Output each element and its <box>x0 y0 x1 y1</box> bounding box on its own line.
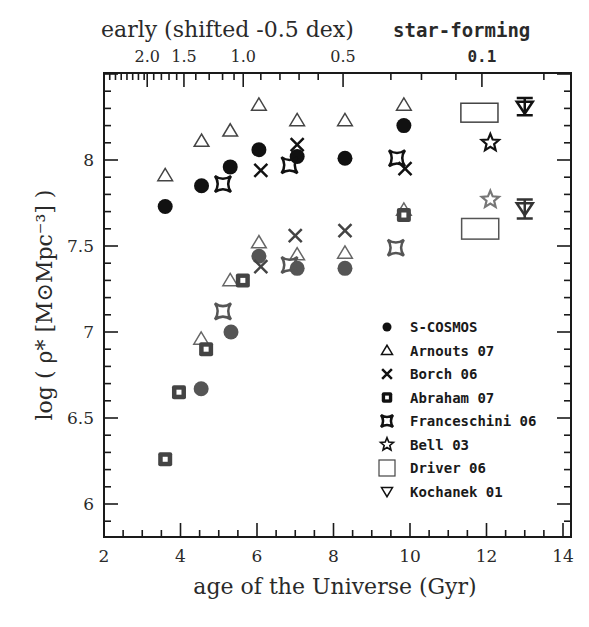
data-point <box>172 385 186 399</box>
legend-item: Kochanek 01 <box>381 484 502 500</box>
legend-item: Driver 06 <box>379 460 486 476</box>
franceschini-icon <box>381 415 393 427</box>
series-kochanek-01-early <box>517 200 533 219</box>
data-point <box>397 208 411 222</box>
square-marker-hole <box>176 390 181 395</box>
top-tick-label: 2.0 <box>134 47 159 66</box>
cross-marker <box>289 229 302 242</box>
top-tick-label: 1.5 <box>171 47 196 66</box>
triangle-marker <box>223 273 238 285</box>
square-marker-hole <box>204 347 209 352</box>
series-driver-06-early <box>462 218 499 239</box>
data-point <box>282 257 298 273</box>
data-point <box>223 273 238 285</box>
data-point <box>223 159 238 174</box>
series-driver-06-star-forming <box>461 103 498 122</box>
triangle-marker <box>158 168 173 180</box>
data-point <box>215 176 231 192</box>
circle-marker <box>158 199 173 214</box>
four-point-star-marker <box>381 415 393 427</box>
rect-icon <box>379 460 395 476</box>
data-point <box>254 164 267 177</box>
data-point <box>194 134 209 146</box>
data-point <box>290 113 305 125</box>
cross-marker <box>338 224 351 237</box>
data-point <box>396 118 411 133</box>
data-point <box>338 246 353 258</box>
data-point <box>199 342 213 356</box>
triangle-marker <box>381 345 392 354</box>
data-point <box>397 98 412 110</box>
data-point <box>194 381 209 396</box>
data-point <box>252 98 267 110</box>
data-point <box>389 150 405 166</box>
arnouts-icon <box>381 345 392 354</box>
circle-marker <box>223 325 238 340</box>
legend-item: S-COSMOS <box>383 319 478 335</box>
y-tick-label: 7.5 <box>67 236 94 256</box>
legend-label: Franceschini 06 <box>410 413 536 429</box>
legend-label: Borch 06 <box>410 366 477 382</box>
top-tick-label: 1.0 <box>231 47 256 66</box>
star-marker <box>482 191 499 207</box>
data-point <box>290 261 305 276</box>
four-point-star-marker <box>215 176 231 192</box>
down-triangle-marker <box>381 488 392 497</box>
legend-label: Driver 06 <box>410 460 486 476</box>
legend-item: Arnouts 07 <box>381 343 494 359</box>
series-franceschini-06-star-forming <box>215 150 405 192</box>
legend-label: Kochanek 01 <box>410 484 503 500</box>
top-tick-label: 0.5 <box>330 47 355 66</box>
square-marker-hole <box>401 213 406 218</box>
star-marker <box>482 134 499 150</box>
top-tick-label: 0.1 <box>467 47 496 66</box>
square-marker-hole <box>163 457 168 462</box>
stellar-mass-density-chart: 246810121466.577.582.01.51.00.50.1 S-COS… <box>0 0 589 627</box>
kochanek-icon <box>381 488 392 497</box>
circle-marker <box>194 178 209 193</box>
driver-box <box>462 218 499 239</box>
cross-marker <box>382 369 392 379</box>
data-point <box>337 261 352 276</box>
circle-icon <box>383 323 392 332</box>
square-marker-hole <box>385 396 389 400</box>
borch-icon <box>382 369 392 379</box>
x-tick-label: 10 <box>399 546 421 566</box>
x-tick-label: 2 <box>99 546 110 566</box>
series-borch-06-star-forming <box>254 138 411 177</box>
data-point <box>252 236 267 248</box>
triangle-marker <box>252 98 267 110</box>
plot-frame <box>104 73 571 537</box>
y-tick-label: 6.5 <box>67 408 94 428</box>
series-s-cosmos-early <box>194 249 353 396</box>
data-point <box>251 142 266 157</box>
circle-marker <box>337 151 352 166</box>
legend-item: Franceschini 06 <box>381 413 536 429</box>
star-marker <box>381 438 394 450</box>
circle-marker <box>290 261 305 276</box>
legend-item: Abraham 07 <box>382 390 495 406</box>
data-point <box>158 452 172 466</box>
series-bell-03-star-forming <box>482 134 499 150</box>
four-point-star-marker <box>389 150 405 166</box>
four-point-star-marker <box>388 240 404 256</box>
series-abraham-07-early <box>158 208 411 466</box>
data-points <box>158 98 533 466</box>
legend: S-COSMOSArnouts 07Borch 06Abraham 07Fran… <box>379 319 536 500</box>
x-tick-label: 14 <box>552 546 574 566</box>
data-point <box>337 151 352 166</box>
y-tick-label: 6 <box>83 494 94 514</box>
triangle-marker <box>290 113 305 125</box>
data-point <box>223 124 238 136</box>
four-point-star-marker <box>215 303 231 319</box>
y-axis-label: log ( ρ* [M⊙Mpc⁻³] ) <box>32 190 57 421</box>
data-point <box>236 273 250 287</box>
square-marker-hole <box>240 278 245 283</box>
triangle-marker <box>338 113 353 125</box>
top-axis-label-star-forming: star-forming <box>393 19 530 41</box>
data-point <box>194 178 209 193</box>
data-point <box>158 199 173 214</box>
data-point <box>338 113 353 125</box>
circle-marker <box>396 118 411 133</box>
triangle-marker <box>338 246 353 258</box>
